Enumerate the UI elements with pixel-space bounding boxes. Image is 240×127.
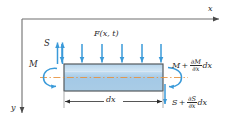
shear-right-denominator: ∂x [187, 102, 197, 110]
moment-right-fraction: ∂M ∂x [190, 59, 202, 74]
moment-right-label: M + ∂M ∂x dx [172, 59, 212, 74]
shear-right-fraction: ∂S ∂x [187, 96, 197, 111]
shear-right-tail: dx [198, 99, 208, 107]
moment-right-plus: + [180, 62, 189, 70]
moment-left-label: M [29, 60, 38, 69]
shear-right-label: S + ∂S ∂x dx [172, 96, 207, 111]
x-axis-label: x [208, 5, 213, 13]
distributed-load-arrows [62, 44, 161, 63]
moment-right-numerator: ∂M [190, 59, 202, 66]
figure-canvas: x y F(x, t) S M M + ∂M ∂x dx S + ∂S ∂x d… [0, 0, 240, 127]
load-label: F(x, t) [94, 30, 119, 38]
moment-right-tail: dx [202, 62, 212, 70]
dimension-label: dx [106, 96, 116, 104]
shear-right-numerator: ∂S [187, 96, 197, 103]
moment-right-denominator: ∂x [190, 65, 202, 73]
y-axis-label: y [11, 104, 16, 112]
shear-left-label: S [44, 39, 50, 48]
shear-left-arrows [58, 43, 63, 65]
shear-right-plus: + [177, 99, 186, 107]
moment-right-base: M [172, 62, 180, 70]
